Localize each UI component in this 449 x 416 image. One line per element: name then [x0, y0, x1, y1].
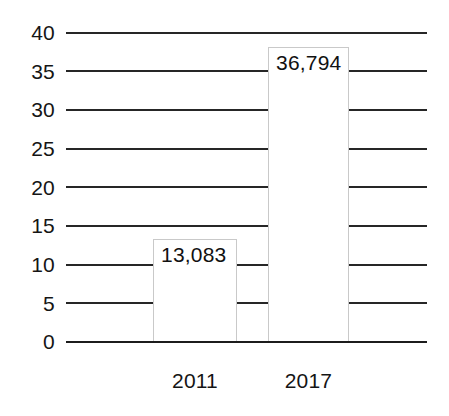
y-axis-tick-label: 10	[9, 254, 55, 275]
gridline-40	[66, 32, 427, 34]
gridline-15	[66, 225, 427, 227]
bar-value-label-2017: 36,794	[269, 48, 347, 78]
gridline-25	[66, 148, 427, 150]
gridline-10	[66, 264, 427, 266]
bar-2017	[268, 47, 349, 342]
y-axis-tick-label: 35	[9, 61, 55, 82]
gridline-5	[66, 302, 427, 304]
y-axis-tick-label: 15	[9, 215, 55, 236]
y-axis-tick-label: 5	[9, 293, 55, 314]
y-axis-tick-label: 40	[9, 22, 55, 43]
bar-value-label-2011: 13,083	[154, 240, 232, 270]
axis-baseline-0	[66, 341, 427, 343]
gridline-30	[66, 109, 427, 111]
y-axis-tick-label: 30	[9, 99, 55, 120]
bar-chart: 40 35 30 25 20 15 10 5 0 13,083 36,794 2…	[0, 0, 449, 416]
gridline-35	[66, 70, 427, 72]
y-axis-tick-label: 25	[9, 138, 55, 159]
x-axis-tick-label-2017: 2017	[268, 370, 349, 391]
y-axis-tick-label: 0	[9, 331, 55, 352]
y-axis-tick-label: 20	[9, 177, 55, 198]
x-axis-tick-label-2011: 2011	[153, 370, 237, 391]
gridline-20	[66, 186, 427, 188]
